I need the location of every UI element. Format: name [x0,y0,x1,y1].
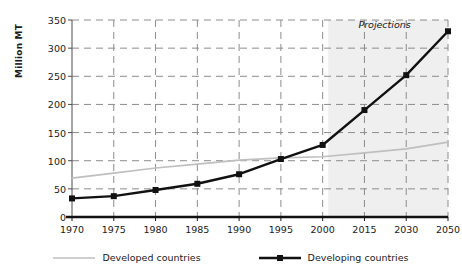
legend-swatch [259,253,301,263]
data-point-marker [445,28,451,34]
chart-container: Million MT 05010015020025030035019701975… [0,0,462,277]
data-point-marker [236,171,242,177]
x-axis-tick-label: 2030 [394,224,418,235]
x-axis-tick-label: 2000 [311,224,335,235]
projections-annotation: Projections [358,19,410,30]
data-point-marker [403,72,409,78]
legend-swatch [53,253,95,263]
data-point-marker [320,142,326,148]
data-point-marker [69,195,75,201]
legend-item[interactable]: Developed countries [53,252,200,263]
y-axis-tick-label: 150 [48,127,66,138]
legend-item-label: Developing countries [308,252,409,263]
data-point-marker [361,107,367,113]
x-axis-tick-label: 1970 [60,224,84,235]
y-axis-title: Million MT [14,0,24,78]
y-axis-tick-label: 250 [48,71,66,82]
x-axis-tick-label: 1985 [185,224,209,235]
y-axis-tick-label: 0 [60,212,66,223]
plot-svg [72,20,448,217]
y-axis-tick-label: 300 [48,43,66,54]
chart-legend: Developed countriesDeveloping countries [0,252,462,263]
x-axis-tick-label: 1975 [102,224,126,235]
legend-item[interactable]: Developing countries [259,252,409,263]
x-axis-tick-label: 1980 [143,224,167,235]
x-axis-tick-label: 2015 [352,224,376,235]
y-axis-tick-label: 200 [48,99,66,110]
data-point-marker [278,156,284,162]
data-point-marker [111,193,117,199]
legend-item-label: Developed countries [102,252,200,263]
y-axis-tick-label: 100 [48,155,66,166]
y-axis-tick-label: 350 [48,15,66,26]
plot-area: 0501001502002503003501970197519801985199… [72,20,448,217]
data-point-marker [194,181,200,187]
data-point-marker [153,187,159,193]
x-axis-tick-label: 2050 [436,224,460,235]
x-axis-tick-label: 1990 [227,224,251,235]
x-axis-tick-label: 1995 [269,224,293,235]
y-axis-tick-label: 50 [54,183,66,194]
